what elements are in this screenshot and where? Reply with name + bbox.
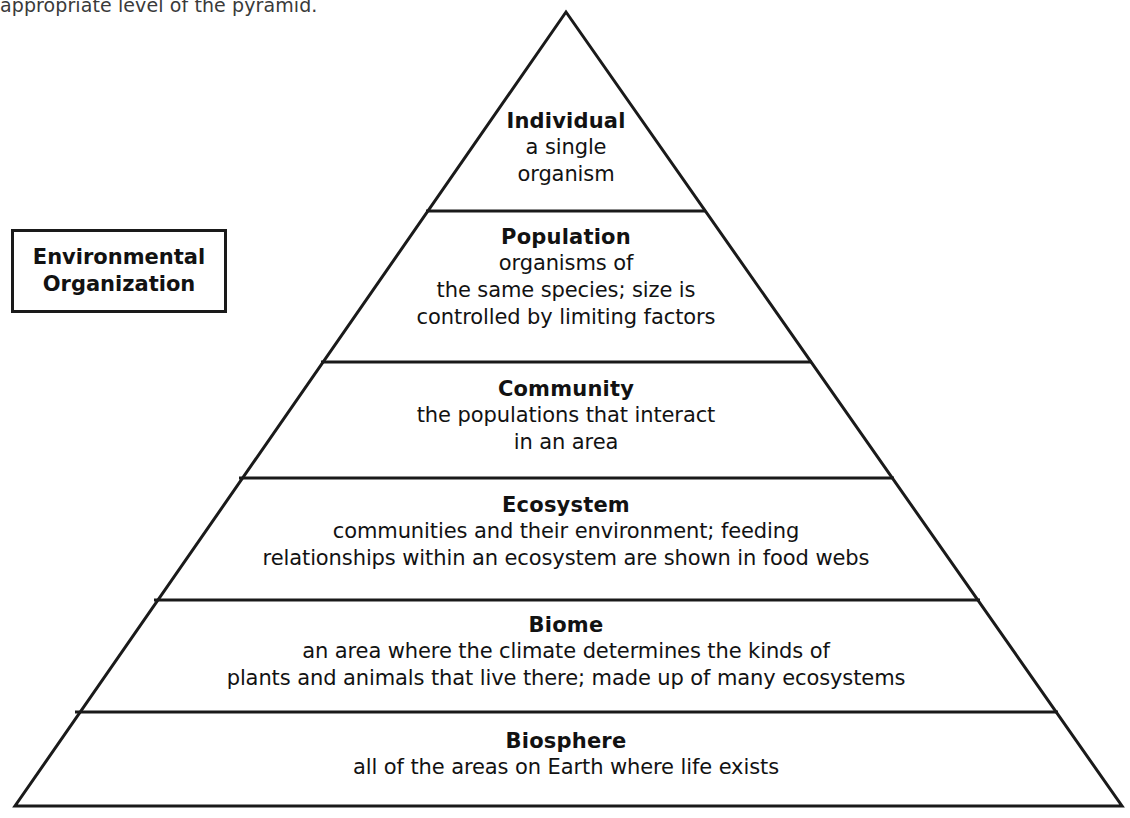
pyramid-level-ecosystem-description: communities and their environment; feedi…	[136, 518, 996, 572]
pyramid-level-individual: Individual a single organism	[406, 108, 726, 188]
pyramid-level-biosphere-title: Biosphere	[116, 728, 1016, 754]
pyramid-level-ecosystem-title: Ecosystem	[136, 492, 996, 518]
pyramid-level-biome: Biome an area where the climate determin…	[96, 612, 1036, 692]
pyramid-level-community-title: Community	[246, 376, 886, 402]
pyramid-level-community: Community the populations that interact …	[246, 376, 886, 456]
pyramid-level-biosphere-description: all of the areas on Earth where life exi…	[116, 754, 1016, 781]
pyramid-level-population-title: Population	[326, 224, 806, 250]
pyramid-level-biome-description: an area where the climate determines the…	[96, 638, 1036, 692]
environmental-organization-pyramid: Individual a single organism Population …	[0, 0, 1130, 818]
pyramid-level-individual-title: Individual	[406, 108, 726, 134]
pyramid-level-biome-title: Biome	[96, 612, 1036, 638]
pyramid-level-biosphere: Biosphere all of the areas on Earth wher…	[116, 728, 1016, 781]
pyramid-level-community-description: the populations that interact in an area	[246, 402, 886, 456]
pyramid-level-population-description: organisms of the same species; size is c…	[326, 250, 806, 331]
pyramid-level-ecosystem: Ecosystem communities and their environm…	[136, 492, 996, 572]
pyramid-level-population: Population organisms of the same species…	[326, 224, 806, 331]
pyramid-level-individual-description: a single organism	[406, 134, 726, 188]
